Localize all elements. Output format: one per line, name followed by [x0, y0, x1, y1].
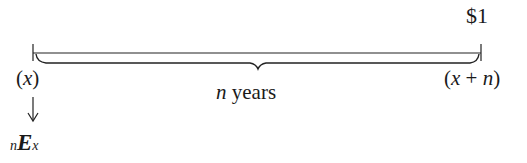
span-brace: [36, 54, 479, 69]
years-text: years: [227, 80, 277, 104]
amount-label: $1: [466, 5, 488, 27]
age-variable: x: [451, 66, 460, 90]
years-variable: n: [216, 80, 227, 104]
open-paren: (: [444, 66, 451, 90]
pure-endowment-symbol: nEx: [10, 131, 39, 154]
age-subscript: x: [32, 138, 38, 153]
years-variable: n: [483, 66, 494, 90]
close-paren: ): [32, 66, 39, 90]
start-age-label: (x): [16, 68, 39, 89]
open-paren: (: [16, 66, 23, 90]
plus-operator: +: [460, 66, 482, 90]
term-subscript: n: [10, 138, 17, 153]
age-variable: x: [23, 66, 32, 90]
endowment-symbol: E: [17, 130, 32, 155]
close-paren: ): [493, 66, 500, 90]
span-label: n years: [216, 82, 276, 103]
end-age-label: (x + n): [444, 68, 500, 89]
